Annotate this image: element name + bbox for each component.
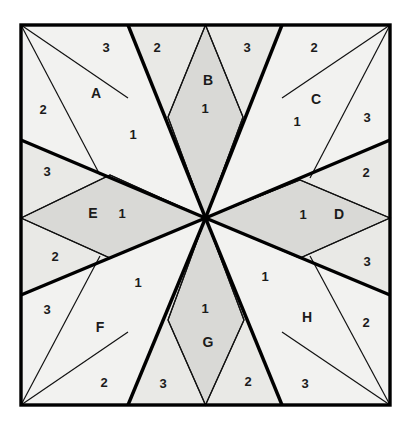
star-diagram-svg — [0, 0, 404, 428]
star-tiling-figure: 32B32A1C211332E11D231131H2FG2323 — [0, 0, 404, 428]
